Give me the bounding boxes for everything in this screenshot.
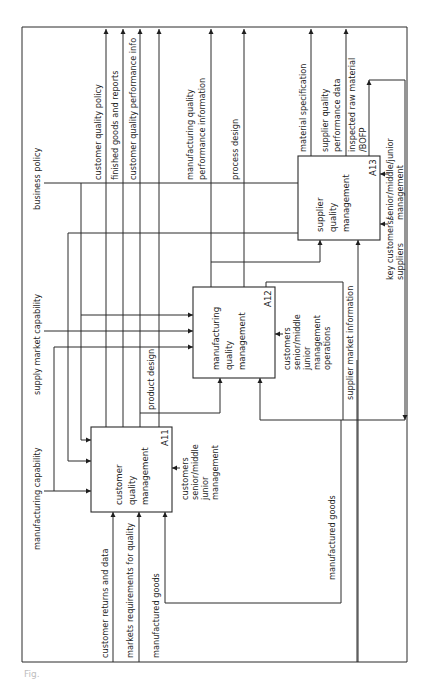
label-product-design: product design: [146, 349, 156, 410]
a13-mech-b-line-2: suppliers: [395, 243, 405, 280]
figure-caption: Fig.: [24, 669, 40, 679]
a12-name-line-2: quality: [224, 341, 234, 370]
label-inspected-raw-material-2: /BOFP: [358, 128, 368, 152]
idef0-diagram: business policy supply market capability…: [0, 0, 434, 680]
label-customer-quality-performance-info: customer quality performance info: [128, 38, 138, 180]
supply-market-capability-line: [44, 329, 193, 334]
a11-name-line-2: quality: [127, 476, 137, 505]
label-customer-returns-and-data: customer returns and data: [100, 548, 110, 658]
a12-mech-line-4: management: [312, 314, 322, 370]
manufacturing-capability-line: [44, 489, 91, 494]
a12-mech-line-2: senior/middle: [292, 314, 302, 370]
label-supplier-market-information: supplier market information: [345, 286, 355, 400]
label-manufactured-goods-loop: manufactured goods: [327, 495, 337, 580]
a13-name-line-1: supplier: [315, 197, 325, 232]
a11-mech-line-2: senior/middle: [190, 444, 200, 500]
label-supply-market-capability: supply market capability: [32, 294, 42, 395]
bottom-input-labels: customer returns and data markets requir…: [100, 523, 161, 658]
a13-mech-a-line-1: senior/middle/junior: [385, 137, 395, 220]
label-material-specification: material specification: [298, 64, 308, 152]
a12-mech-line-5: operations: [322, 326, 332, 370]
left-labels: business policy supply market capability…: [32, 147, 42, 550]
a11-mech-line-1: customers: [180, 457, 190, 500]
a13-name-line-3: management: [341, 174, 351, 232]
a12-mech-line-3: junior: [302, 346, 312, 371]
label-process-design: process design: [230, 119, 240, 180]
a12-mech-line-1: customers: [282, 327, 292, 370]
a13-mech-a-line-2: management: [395, 164, 405, 220]
a12-to-a13-line: [211, 240, 323, 262]
a12-name-line-3: management: [237, 312, 247, 370]
label-manufacturing-quality-performance-2: performance information: [197, 78, 207, 180]
a13-id: A13: [368, 159, 378, 176]
label-business-policy: business policy: [32, 147, 42, 210]
a13-mech-b-line-1: key customers/: [385, 217, 395, 280]
a11-name-line-3: management: [140, 447, 150, 505]
a12-id: A12: [263, 290, 273, 307]
label-customer-quality-policy: customer quality policy: [93, 84, 103, 180]
label-supplier-quality-performance-2: performance data: [332, 79, 342, 152]
a11-name-line-1: customer: [114, 464, 124, 505]
label-supplier-quality-performance-1: supplier quality: [320, 88, 330, 152]
label-manufacturing-capability: manufacturing capability: [32, 447, 42, 550]
a11-mech-line-3: junior: [200, 476, 210, 501]
a12-name-line-1: manufacturing: [211, 307, 221, 370]
label-markets-requirements-for-quality: markets requirements for quality: [125, 523, 135, 658]
label-inspected-raw-material-1: inspected raw material: [347, 58, 357, 152]
a13-name-line-2: quality: [328, 203, 338, 232]
label-manufactured-goods: manufactured goods: [151, 573, 161, 658]
label-finished-goods-and-reports: finished goods and reports: [110, 71, 120, 180]
a11-id: A11: [160, 429, 170, 446]
a11-mech-line-4: management: [210, 444, 220, 500]
label-manufacturing-quality-performance-1: manufacturing quality: [185, 89, 195, 180]
